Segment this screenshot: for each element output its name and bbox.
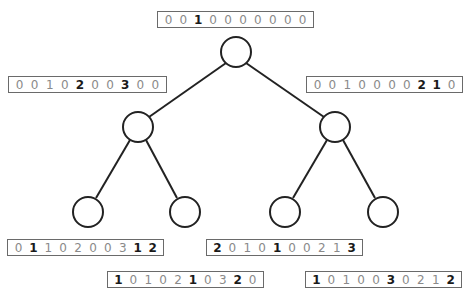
vector-digit: 0 <box>398 273 413 287</box>
edge-right-leaf4 <box>343 140 375 198</box>
vector-digit: 0 <box>56 241 71 255</box>
edge-left-leaf2 <box>146 140 177 198</box>
vector-digit: 1 <box>41 241 56 255</box>
vector-digit: 3 <box>118 78 133 92</box>
node-leaf-1 <box>73 197 103 227</box>
vector-digit: 1 <box>111 273 126 287</box>
vector-digit: 1 <box>309 273 324 287</box>
vector-digit: 1 <box>26 241 41 255</box>
vector-digit: 2 <box>314 241 329 255</box>
vector-digit: 0 <box>324 273 339 287</box>
vector-digit: 1 <box>339 273 354 287</box>
vector-digit: 1 <box>429 78 444 92</box>
vector-digit: 0 <box>285 241 300 255</box>
vector-digit: 2 <box>71 241 86 255</box>
vector-digit: 2 <box>171 273 186 287</box>
vector-digit: 0 <box>206 13 221 27</box>
vector-digit: 2 <box>72 78 87 92</box>
vector-digit: 0 <box>126 273 141 287</box>
vector-digit: 0 <box>325 78 340 92</box>
node-leaf-4 <box>368 197 398 227</box>
vector-leaf-2: 1010210320 <box>107 271 264 288</box>
node-left <box>123 112 153 142</box>
vector-digit: 2 <box>414 78 429 92</box>
vector-digit: 0 <box>265 13 280 27</box>
vector-digit: 3 <box>384 273 399 287</box>
vector-digit: 0 <box>236 13 251 27</box>
vector-leaf-3: 2010100213 <box>206 239 363 256</box>
node-root <box>221 37 251 67</box>
vector-digit: 1 <box>141 273 156 287</box>
vector-digit: 0 <box>133 78 148 92</box>
vector-digit: 0 <box>12 78 27 92</box>
node-leaf-2 <box>170 197 200 227</box>
vector-leaf-1: 0110200312 <box>7 239 164 256</box>
vector-digit: 0 <box>57 78 72 92</box>
vector-digit: 0 <box>399 78 414 92</box>
vector-digit: 1 <box>191 13 206 27</box>
vector-digit: 0 <box>27 78 42 92</box>
vector-digit: 0 <box>156 273 171 287</box>
vector-digit: 0 <box>385 78 400 92</box>
vector-digit: 0 <box>88 78 103 92</box>
vector-digit: 0 <box>280 13 295 27</box>
vector-digit: 0 <box>299 241 314 255</box>
vector-digit: 0 <box>369 273 384 287</box>
vector-root: 0010000000 <box>157 11 314 28</box>
edge-left-leaf1 <box>96 140 130 198</box>
vector-digit: 2 <box>210 241 225 255</box>
vector-left: 0010200300 <box>8 76 167 93</box>
vector-digit: 3 <box>115 241 130 255</box>
vector-digit: 2 <box>413 273 428 287</box>
vector-leaf-4: 1010030212 <box>305 271 462 288</box>
node-leaf-3 <box>270 197 300 227</box>
vector-digit: 2 <box>145 241 160 255</box>
vector-digit: 0 <box>250 13 265 27</box>
vector-digit: 0 <box>86 241 101 255</box>
vector-digit: 0 <box>354 273 369 287</box>
vector-digit: 0 <box>161 13 176 27</box>
vector-digit: 1 <box>270 241 285 255</box>
vector-digit: 2 <box>443 273 458 287</box>
vector-digit: 0 <box>103 78 118 92</box>
vector-digit: 0 <box>176 13 191 27</box>
vector-digit: 0 <box>444 78 459 92</box>
vector-digit: 1 <box>186 273 201 287</box>
vector-digit: 0 <box>100 241 115 255</box>
vector-digit: 0 <box>245 273 260 287</box>
vector-digit: 3 <box>215 273 230 287</box>
vector-digit: 0 <box>11 241 26 255</box>
vector-digit: 0 <box>355 78 370 92</box>
vector-digit: 1 <box>130 241 145 255</box>
vector-digit: 0 <box>148 78 163 92</box>
node-right <box>320 112 350 142</box>
vector-digit: 0 <box>295 13 310 27</box>
vector-digit: 0 <box>310 78 325 92</box>
vector-digit: 1 <box>340 78 355 92</box>
vector-digit: 1 <box>42 78 57 92</box>
vector-digit: 2 <box>230 273 245 287</box>
vector-digit: 3 <box>344 241 359 255</box>
vector-digit: 0 <box>370 78 385 92</box>
vector-digit: 1 <box>329 241 344 255</box>
vector-digit: 0 <box>221 13 236 27</box>
vector-digit: 0 <box>225 241 240 255</box>
vector-digit: 1 <box>240 241 255 255</box>
vector-digit: 0 <box>255 241 270 255</box>
vector-right: 0010000210 <box>306 76 463 93</box>
vector-digit: 0 <box>200 273 215 287</box>
vector-digit: 1 <box>428 273 443 287</box>
edge-right-leaf3 <box>293 140 327 198</box>
